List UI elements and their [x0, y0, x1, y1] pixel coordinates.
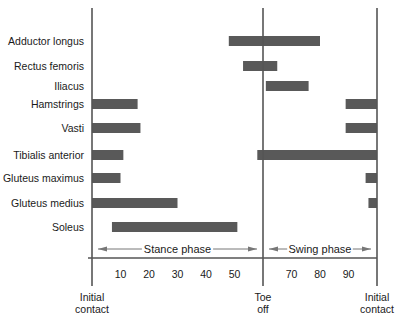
muscle-label: Vasti: [61, 122, 84, 134]
activity-bar: [257, 150, 377, 160]
arrow-left-icon: [98, 247, 107, 252]
activity-bar: [368, 198, 377, 208]
muscle-row: Soleus: [52, 221, 237, 233]
muscle-label: Adductor longus: [8, 35, 84, 47]
gait-event: Initialcontact: [360, 291, 394, 315]
activity-bar: [346, 123, 377, 133]
activity-bar: [346, 99, 377, 109]
x-tick-label: 50: [229, 268, 241, 280]
muscle-label: Gluteus medius: [11, 197, 84, 209]
phase-arrow-swing: Swing phase: [269, 243, 371, 255]
event-label-line1: Toe: [255, 291, 272, 303]
activity-bar: [266, 81, 309, 91]
x-tick-label: 40: [200, 268, 212, 280]
event-label-line1: Initial: [80, 291, 105, 303]
event-label-line1: Initial: [365, 291, 390, 303]
phase-arrow-stance: Stance phase: [98, 243, 257, 255]
gait-event-labels: InitialcontactToeoffInitialcontact: [75, 291, 394, 315]
muscle-label: Gluteus maximus: [3, 172, 84, 184]
event-label-line2: off: [257, 303, 269, 315]
muscle-row: Gluteus maximus: [3, 172, 377, 184]
muscle-label: Iliacus: [54, 80, 84, 92]
phase-label: Swing phase: [289, 243, 352, 255]
x-tick-labels: 1020304050708090: [115, 268, 355, 280]
muscle-label: Rectus femoris: [14, 60, 84, 72]
activity-bar: [92, 150, 123, 160]
muscle-row: Hamstrings: [31, 98, 377, 110]
activity-bar: [92, 99, 138, 109]
x-tick-label: 20: [143, 268, 155, 280]
muscle-activity-gait-chart: Adductor longusRectus femorisIliacusHams…: [0, 0, 398, 319]
phase-label: Stance phase: [144, 243, 211, 255]
muscle-row: Tibialis anterior: [13, 149, 377, 161]
activity-bar: [229, 36, 320, 46]
muscle-row: Adductor longus: [8, 35, 320, 47]
muscle-row: Gluteus medius: [11, 197, 377, 209]
x-tick-label: 70: [286, 268, 298, 280]
activity-bar: [92, 198, 178, 208]
gait-event: Initialcontact: [75, 291, 109, 315]
event-label-line2: contact: [360, 303, 394, 315]
phase-arrows: Stance phaseSwing phase: [98, 243, 371, 255]
arrow-right-icon: [248, 247, 257, 252]
activity-bar: [366, 173, 377, 183]
muscle-rows: Adductor longusRectus femorisIliacusHams…: [3, 35, 377, 233]
x-tick-label: 10: [115, 268, 127, 280]
muscle-row: Vasti: [61, 122, 377, 134]
muscle-row: Rectus femoris: [14, 60, 277, 72]
arrow-left-icon: [269, 247, 278, 252]
activity-bar: [112, 222, 237, 232]
event-label-line2: contact: [75, 303, 109, 315]
muscle-label: Hamstrings: [31, 98, 84, 110]
x-tick-label: 30: [172, 268, 184, 280]
muscle-label: Soleus: [52, 221, 84, 233]
gait-event: Toeoff: [255, 291, 272, 315]
arrow-right-icon: [362, 247, 371, 252]
muscle-label: Tibialis anterior: [13, 149, 84, 161]
activity-bar: [92, 173, 121, 183]
activity-bar: [92, 123, 140, 133]
activity-bar: [243, 61, 277, 71]
x-tick-label: 80: [314, 268, 326, 280]
x-tick-label: 90: [343, 268, 355, 280]
